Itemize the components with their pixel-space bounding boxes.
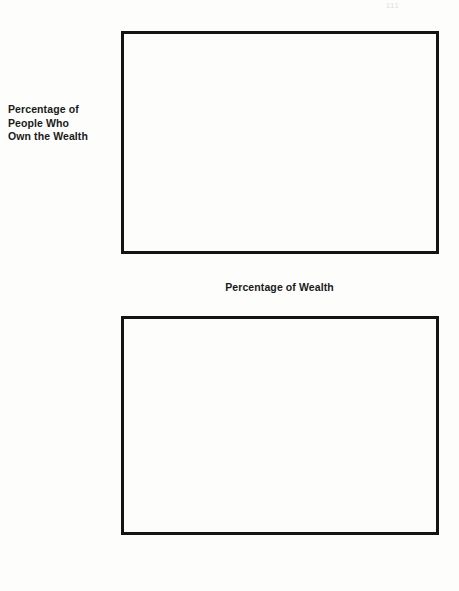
connections-plot-svg [0, 300, 459, 591]
chart-connection-probability: Probability of This Number of Connection… [0, 300, 459, 591]
chart-wealth-distribution: Percentage of People Who Own the Wealth … [0, 0, 459, 300]
plot-frame [123, 33, 438, 253]
y-axis-title: Percentage of People Who Own the Wealth [8, 103, 120, 144]
plot-frame [123, 318, 438, 534]
figure-page: 111 Percentage of People Who Own the Wea… [0, 0, 459, 591]
x-axis-title: Percentage of Wealth [122, 281, 437, 295]
wealth-plot-svg [0, 0, 459, 300]
